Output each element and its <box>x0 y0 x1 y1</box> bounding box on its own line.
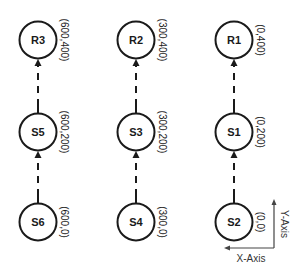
edge-s1-to-r1 <box>231 59 238 114</box>
node-r1: R1 (0,400) <box>216 22 267 59</box>
arrowhead-icon <box>231 151 238 158</box>
arrowhead-icon <box>35 59 42 66</box>
edge-s2-to-s1 <box>231 151 238 204</box>
x-axis-label: X-Axis <box>237 253 266 264</box>
arrow-left-icon <box>224 246 230 251</box>
edge-s6-to-s5 <box>35 151 42 204</box>
node-r3: R3 (600,400) <box>20 19 71 62</box>
node-label: R1 <box>227 34 241 46</box>
coord-label: (300,200) <box>157 111 168 154</box>
coord-label: (600,0) <box>59 206 70 238</box>
coord-label: (600,400) <box>59 19 70 62</box>
coord-label: (0,400) <box>255 24 266 56</box>
arrowhead-icon <box>35 151 42 158</box>
node-label: S6 <box>31 216 44 228</box>
arrowhead-icon <box>133 151 140 158</box>
node-s2: S2 (0,0) <box>216 204 267 241</box>
node-s6: S6 (600,0) <box>20 204 71 241</box>
coord-label: (300,0) <box>157 206 168 238</box>
arrowhead-icon <box>231 59 238 66</box>
node-s5: S5 (600,200) <box>20 111 71 154</box>
node-label: S5 <box>31 126 44 138</box>
edge-s3-to-r2 <box>133 59 140 114</box>
node-label: S4 <box>129 216 143 228</box>
coord-label: (0,0) <box>255 212 266 233</box>
node-label: S3 <box>129 126 142 138</box>
arrowhead-icon <box>133 59 140 66</box>
node-s3: S3 (300,200) <box>118 111 169 154</box>
edge-s5-to-r3 <box>35 59 42 114</box>
node-s1: S1 (0,200) <box>216 114 267 151</box>
y-axis-label: Y-Axis <box>279 210 290 238</box>
node-s4: S4 (300,0) <box>118 204 169 241</box>
diagram-canvas: R3 (600,400) R2 (300,400) R1 (0,400) S5 … <box>0 0 300 275</box>
coord-label: (300,400) <box>157 19 168 62</box>
coord-label: (0,200) <box>255 116 266 148</box>
node-label: S2 <box>227 216 240 228</box>
arrow-up-icon <box>272 199 277 205</box>
edge-s4-to-s3 <box>133 151 140 204</box>
node-label: S1 <box>227 126 240 138</box>
coord-label: (600,200) <box>59 111 70 154</box>
node-label: R2 <box>129 34 143 46</box>
node-r2: R2 (300,400) <box>118 19 169 62</box>
node-label: R3 <box>31 34 45 46</box>
